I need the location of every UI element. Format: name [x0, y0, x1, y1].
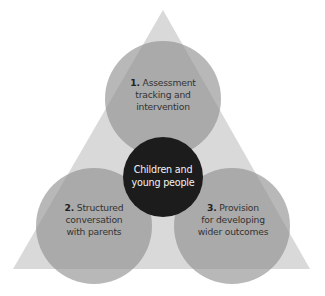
node-number: 3. [207, 202, 216, 213]
node-label-structured-conversation: 2. Structured conversation with parents [42, 202, 146, 238]
node-label-line-3: wider outcomes [180, 226, 286, 238]
venn-triangle-graphic [0, 0, 325, 296]
node-label-line-2: tracking and [113, 89, 213, 101]
center-label-line-2: young people [123, 176, 203, 189]
node-label-line-3: with parents [42, 226, 146, 238]
node-text: Structured [77, 202, 124, 213]
node-label-provision: 3. Provision for developing wider outcom… [180, 202, 286, 238]
node-label-line-2: for developing [180, 214, 286, 226]
node-text: Provision [219, 202, 259, 213]
node-label-line-2: conversation [42, 214, 146, 226]
node-label-line-3: intervention [113, 101, 213, 113]
node-number: 2. [65, 202, 74, 213]
node-text: Assessment [143, 77, 196, 88]
center-label-line-1: Children and [123, 163, 203, 176]
node-label-assessment: 1. Assessment tracking and intervention [113, 77, 213, 113]
node-label-line-1: 1. Assessment [113, 77, 213, 89]
center-label: Children and young people [123, 163, 203, 189]
node-number: 1. [130, 77, 139, 88]
node-label-line-1: 3. Provision [180, 202, 286, 214]
node-label-line-1: 2. Structured [42, 202, 146, 214]
diagram-canvas: 1. Assessment tracking and intervention … [0, 0, 325, 296]
